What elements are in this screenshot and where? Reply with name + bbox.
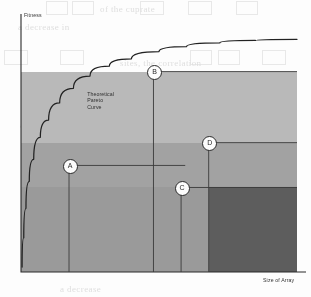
annotation-line: Curve [87, 104, 114, 110]
figure-container: of the cupratea decrease insites, the co… [0, 0, 311, 297]
rectangle-edges [0, 0, 311, 297]
pareto-curve-label: TheoreticalParetoCurve [87, 91, 114, 110]
marker-b[interactable]: B [147, 65, 162, 80]
pareto-chart: ABCD TheoreticalParetoCurve Fitness Size… [0, 0, 311, 297]
marker-a[interactable]: A [63, 159, 78, 174]
marker-c[interactable]: C [175, 181, 190, 196]
